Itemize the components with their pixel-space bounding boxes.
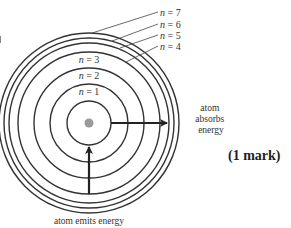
label-n5: n = 5 xyxy=(160,30,181,41)
emit-caption: atom emits energy xyxy=(54,216,124,226)
mark-allocation: (1 mark) xyxy=(228,148,281,164)
label-n7: n = 7 xyxy=(160,7,181,18)
label-n2: n = 2 xyxy=(79,70,100,81)
label-n1: n = 1 xyxy=(79,86,100,97)
leader-line-n6 xyxy=(112,24,158,41)
label-n4: n = 4 xyxy=(160,41,181,52)
leader-line-n7 xyxy=(92,12,158,33)
nucleus xyxy=(85,119,94,128)
absorb-caption: atom absorbs energy xyxy=(195,103,226,135)
label-n6: n = 6 xyxy=(160,19,181,30)
bohr-atom-diagram: n = 1 n = 2 n = 3 n = 7 n = 6 n = 5 n = … xyxy=(0,0,291,228)
label-n3: n = 3 xyxy=(79,54,100,65)
